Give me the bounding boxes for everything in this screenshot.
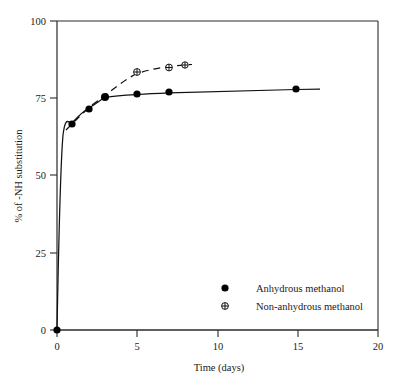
y-axis-title: % of -NH substitution (13, 129, 24, 223)
data-point-filled (85, 105, 92, 112)
y-tick-label-0: 0 (41, 325, 46, 336)
data-point-filled (165, 88, 172, 95)
x-axis-title: Time (days) (194, 362, 245, 374)
x-tick-label-0: 0 (54, 341, 59, 352)
legend-label-anhydrous: Anhydrous methanol (256, 283, 344, 294)
chart-canvas: 100 75 50 25 0 0 5 10 15 20 Time (days) … (0, 0, 398, 383)
series-anhydrous-markers (53, 85, 299, 333)
data-point-filled (133, 90, 140, 97)
legend-marker-filled-circle-icon (221, 284, 228, 291)
data-point-open (166, 64, 173, 71)
x-tick-label-5: 5 (134, 341, 139, 352)
series-non-anhydrous-line (66, 65, 192, 131)
legend-label-non-anhydrous: Non-anhydrous methanol (256, 301, 363, 312)
chart-legend: Anhydrous methanol Non-anhydrous methano… (221, 283, 363, 312)
y-tick-label-25: 25 (36, 248, 47, 259)
data-point-open (134, 69, 141, 76)
data-point-filled (101, 93, 109, 101)
data-point-filled (53, 326, 60, 333)
x-tick-label-20: 20 (373, 341, 384, 352)
data-point-filled (292, 85, 299, 92)
y-tick-label-100: 100 (30, 16, 46, 27)
y-tick-label-50: 50 (36, 170, 47, 181)
y-tick-label-75: 75 (36, 93, 47, 104)
x-tick-label-10: 10 (213, 341, 224, 352)
x-tick-label-15: 15 (293, 341, 304, 352)
data-point-open (182, 62, 188, 68)
legend-marker-open-cross-circle-icon (222, 303, 229, 310)
y-axis-ticks (50, 21, 57, 330)
legend-entry-non-anhydrous[interactable]: Non-anhydrous methanol (222, 301, 364, 312)
series-non-anhydrous-markers (134, 62, 189, 76)
x-axis-ticks (57, 330, 378, 337)
data-point-filled (68, 120, 75, 127)
chart-container: 100 75 50 25 0 0 5 10 15 20 Time (days) … (0, 0, 398, 383)
legend-entry-anhydrous[interactable]: Anhydrous methanol (221, 283, 344, 294)
